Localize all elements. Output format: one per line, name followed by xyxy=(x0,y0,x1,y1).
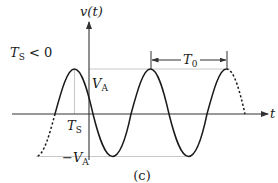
period-label: T0 xyxy=(183,52,198,69)
shift-sub: S xyxy=(76,125,82,135)
shift-label: TS xyxy=(67,118,82,135)
peak-label: VA xyxy=(92,76,108,93)
condition-rest: < 0 xyxy=(25,45,52,60)
trough-sub: A xyxy=(81,157,89,167)
trough-label: −VA xyxy=(62,150,89,167)
peak-sub: A xyxy=(100,83,108,93)
dashed-curve-left xyxy=(36,114,55,157)
x-axis-label: t xyxy=(270,106,276,121)
dashed-curve-right xyxy=(227,69,246,114)
y-axis-label: v(t) xyxy=(80,4,103,19)
period-sub: 0 xyxy=(192,59,198,69)
sinusoid-diagram: v(t) t TS < 0 VA TS −VA T0 (c) xyxy=(0,0,278,183)
condition-label: TS < 0 xyxy=(10,45,52,62)
sinusoid-curve xyxy=(55,69,227,157)
figure-caption: (c) xyxy=(133,168,150,183)
trough-symbol: −V xyxy=(62,150,84,165)
